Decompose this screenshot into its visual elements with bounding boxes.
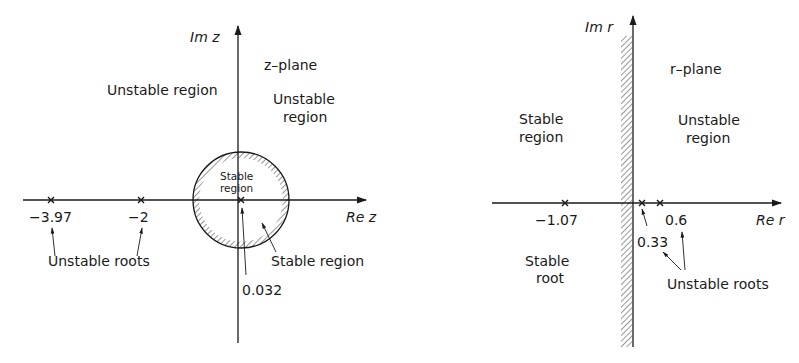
imag-axis-hatch-band (621, 36, 632, 347)
z-plane-panel: Im z Re z z–plane Unstable region Unstab… (23, 26, 377, 343)
r-stable-region-1: Stable (519, 111, 563, 127)
unstable-roots-annotation: Unstable roots (48, 253, 150, 269)
r-plane-title: r–plane (670, 61, 722, 77)
z-unstable-region-right-2: region (283, 109, 327, 125)
r-unstable-region-2: region (686, 130, 730, 146)
root-label-neg-2: −2 (128, 209, 149, 225)
r-unstable-roots-annotation: Unstable roots (667, 276, 769, 292)
r-real-axis-label: Re r (756, 212, 786, 228)
root-label-0-6: 0.6 (665, 212, 687, 228)
r-stable-region-2: region (519, 129, 563, 145)
arrow-to-neg-3-97 (52, 228, 55, 256)
stable-region-annotation: Stable region (271, 253, 364, 269)
stable-root-label-1: Stable (525, 253, 569, 269)
root-label-0-33: 0.33 (637, 234, 668, 250)
r-unstable-region-1: Unstable (678, 112, 740, 128)
z-plane-title: z–plane (264, 57, 317, 73)
r-plane-panel: Im r Re r r–plane Stable region Unstable… (492, 16, 786, 347)
arrow-to-neg-2 (137, 228, 142, 256)
arrow-to-0-6-label (682, 232, 685, 270)
circle-stable-label-2: region (220, 182, 253, 194)
z-unstable-region-left: Unstable region (107, 82, 218, 98)
stable-root-label-2: root (536, 270, 565, 286)
z-imag-axis-label: Im z (190, 29, 220, 45)
r-imag-axis-label: Im r (585, 19, 614, 35)
z-real-axis-label: Re z (346, 209, 377, 225)
root-label-neg-3-97: −3.97 (29, 209, 72, 225)
circle-stable-label-1: Stable (220, 170, 253, 182)
stability-diagram: Im z Re z z–plane Unstable region Unstab… (0, 0, 799, 363)
z-unstable-region-right-1: Unstable (273, 91, 335, 107)
root-label-0-032: 0.032 (242, 282, 282, 298)
root-label-neg-1-07: −1.07 (535, 212, 578, 228)
arrow-to-0-33-label (663, 252, 681, 270)
arrow-to-0-33-tick (642, 209, 647, 226)
